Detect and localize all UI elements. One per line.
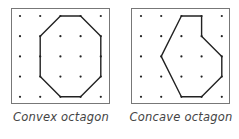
- octagon-outline: [161, 16, 222, 97]
- grid-dot: [140, 55, 142, 57]
- grid-dot: [221, 55, 223, 57]
- grid-dot: [221, 35, 223, 37]
- grid-dot: [160, 76, 162, 78]
- grid-dot: [140, 76, 142, 78]
- grid-dot: [160, 55, 162, 57]
- grid-dot: [140, 15, 142, 17]
- grid-dot: [201, 35, 203, 37]
- grid-dot: [221, 15, 223, 17]
- grid-dot: [201, 15, 203, 17]
- concave-octagon-drawing: [0, 0, 239, 110]
- grid-dot: [140, 96, 142, 98]
- grid-dot: [160, 15, 162, 17]
- grid-dot: [180, 55, 182, 57]
- grid-dot: [180, 15, 182, 17]
- caption-concave: Concave octagon: [121, 110, 239, 124]
- grid-dot: [180, 76, 182, 78]
- grid-dot: [201, 55, 203, 57]
- caption-convex: Convex octagon: [1, 110, 121, 124]
- grid-dot: [201, 96, 203, 98]
- grid-dot: [201, 76, 203, 78]
- grid-dot: [140, 35, 142, 37]
- grid-dot: [221, 96, 223, 98]
- grid-dot: [180, 96, 182, 98]
- grid-dot: [180, 35, 182, 37]
- grid-dot: [160, 35, 162, 37]
- grid-dot: [221, 76, 223, 78]
- grid-dot: [160, 96, 162, 98]
